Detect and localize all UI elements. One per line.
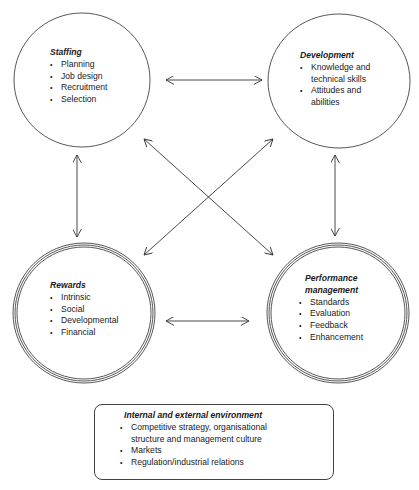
list-item: Competitive strategy, organisational str… bbox=[120, 422, 300, 446]
list-item: Intrinsic bbox=[50, 292, 150, 304]
development-node: Development Knowledge and technical skil… bbox=[300, 50, 386, 109]
list-item: Markets bbox=[120, 445, 300, 457]
list-item: Job design bbox=[50, 71, 150, 83]
rewards-items: Intrinsic Social Developmental Financial bbox=[50, 292, 150, 339]
performance-management-node: Performance management Standards Evaluat… bbox=[305, 273, 377, 344]
staffing-node: Staffing Planning Job design Recruitment… bbox=[50, 47, 150, 106]
rewards-node: Rewards Intrinsic Social Developmental F… bbox=[50, 280, 150, 339]
development-title: Development bbox=[300, 50, 386, 62]
list-item: Social bbox=[50, 304, 150, 316]
staffing-items: Planning Job design Recruitment Selectio… bbox=[50, 59, 150, 106]
performance-management-items: Standards Evaluation Feedback Enhancemen… bbox=[299, 297, 377, 344]
list-item: Planning bbox=[50, 59, 150, 71]
staffing-title: Staffing bbox=[50, 47, 150, 59]
list-item: Standards bbox=[299, 297, 377, 309]
list-item: Selection bbox=[50, 94, 150, 106]
environment-title: Internal and external environment bbox=[124, 410, 330, 422]
list-item: Financial bbox=[50, 327, 150, 339]
list-item: Developmental bbox=[50, 315, 150, 327]
list-item: Recruitment bbox=[50, 82, 150, 94]
list-item: Evaluation bbox=[299, 308, 377, 320]
environment-items: Competitive strategy, organisational str… bbox=[120, 422, 300, 469]
list-item: Knowledge and technical skills bbox=[300, 62, 386, 86]
performance-management-title: Performance management bbox=[305, 273, 377, 297]
list-item: Regulation/industrial relations bbox=[120, 457, 300, 469]
environment-node: Internal and external environment Compet… bbox=[120, 410, 330, 469]
development-items: Knowledge and technical skills Attitudes… bbox=[300, 62, 386, 109]
list-item: Feedback bbox=[299, 320, 377, 332]
list-item: Enhancement bbox=[299, 332, 377, 344]
list-item: Attitudes and abilities bbox=[300, 85, 386, 109]
rewards-title: Rewards bbox=[50, 280, 150, 292]
